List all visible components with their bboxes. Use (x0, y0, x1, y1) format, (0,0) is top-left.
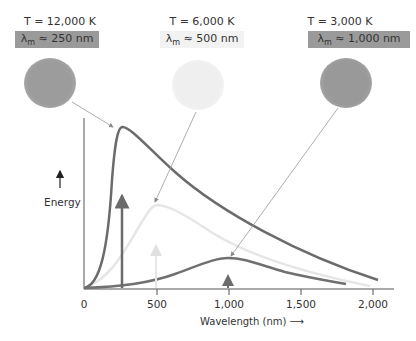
x-tick-label: 1,500 (286, 298, 316, 310)
x-ticks (157, 289, 373, 295)
x-tick-label: 0 (81, 298, 88, 310)
curve-6000k (84, 205, 370, 288)
y-axis-label: Energy (44, 196, 81, 208)
blackbody-chart (0, 0, 416, 341)
x-tick-label: 2,000 (358, 298, 388, 310)
pointer-arrow-6000k (155, 112, 196, 202)
curve-12000k (84, 127, 378, 288)
pointer-arrow-3000k (231, 108, 338, 256)
curve-3000k (84, 258, 346, 288)
x-tick-label: 500 (147, 298, 167, 310)
pointer-arrow-12000k (72, 102, 113, 127)
x-axis-label: Wavelength (nm) ⟶ (200, 316, 304, 327)
x-tick-label: 1,000 (214, 298, 244, 310)
